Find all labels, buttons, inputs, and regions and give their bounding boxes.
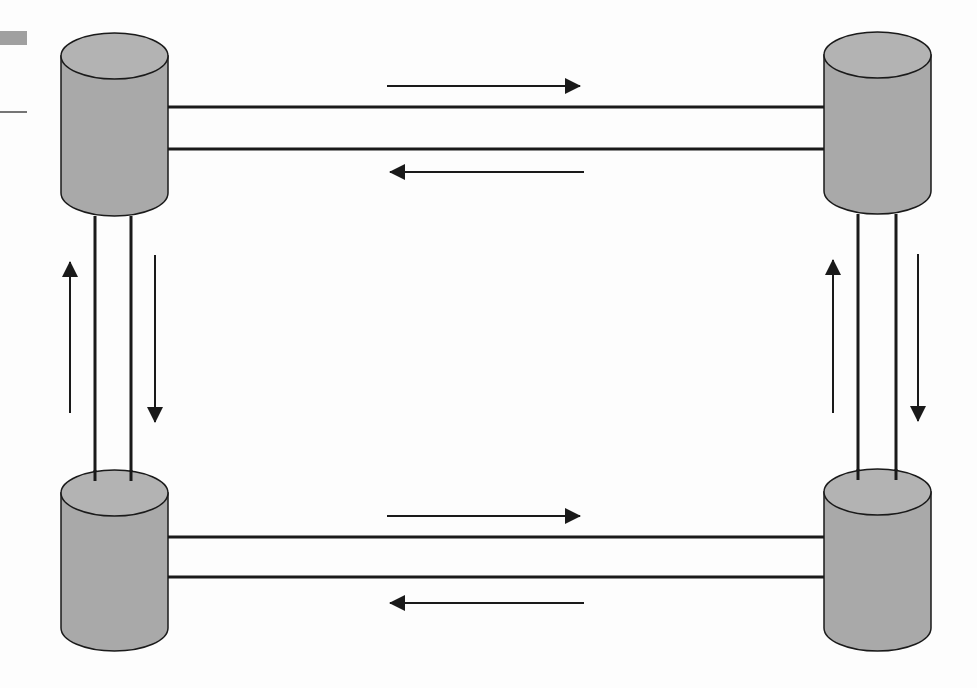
database-cylinder-top-right: [824, 32, 931, 214]
link-top: [168, 86, 824, 172]
database-cylinder-bottom-right: [824, 469, 931, 651]
link-bottom: [168, 516, 824, 603]
replication-diagram: [0, 0, 977, 688]
link-right: [833, 214, 918, 480]
database-cylinder-top-left: [61, 33, 168, 216]
link-left: [70, 216, 155, 480]
fragment-grey-bar: [0, 31, 27, 45]
database-cylinder-bottom-left: [61, 470, 168, 651]
